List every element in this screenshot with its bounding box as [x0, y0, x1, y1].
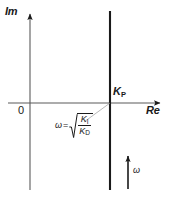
imaginary-axis-label: Im	[5, 6, 17, 17]
omega-symbol: ω	[55, 120, 62, 130]
fraction-numerator: KI	[78, 115, 91, 126]
denominator-subscript: D	[85, 129, 90, 136]
radical-sign-icon	[69, 113, 78, 136]
omega-direction-label: ω	[133, 166, 140, 175]
complex-plane-figure: Im Re 0 KP ω = KI KD ω	[0, 0, 171, 201]
fraction: KI KD	[78, 115, 91, 136]
square-root: KI KD	[69, 113, 93, 136]
numerator-subscript: I	[87, 118, 89, 125]
kp-label-main: K	[113, 85, 121, 97]
equals-sign: =	[63, 120, 68, 130]
origin-label: 0	[18, 105, 24, 116]
kp-label-subscript: P	[121, 90, 126, 99]
fraction-denominator: KD	[78, 126, 91, 136]
radicand: KI KD	[77, 113, 93, 136]
figure-canvas	[0, 0, 171, 201]
kp-label: KP	[113, 86, 126, 97]
omega-equation: ω = KI KD	[55, 113, 93, 136]
real-axis-label: Re	[146, 105, 159, 116]
numerator-main: K	[81, 114, 87, 124]
